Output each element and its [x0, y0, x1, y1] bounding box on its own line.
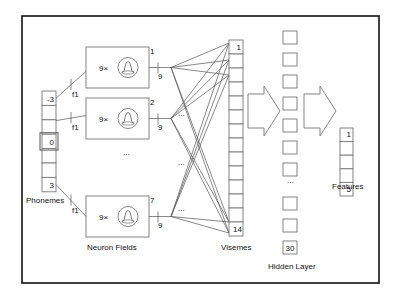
viseme-first-label: 1: [237, 43, 242, 52]
viseme-last-label: 14: [233, 225, 242, 234]
hidden-unit-last-label: 30: [286, 244, 295, 253]
hidden-layer-column: 30: [283, 31, 297, 254]
neuron-field-output-width: 9: [158, 221, 163, 230]
hidden-unit: [283, 119, 297, 132]
hidden-unit: [283, 75, 297, 88]
phoneme-cell-label: 0: [50, 138, 55, 147]
phoneme-cell: [42, 120, 56, 134]
neuron-field-multiplier: 9×: [99, 115, 108, 124]
connection-ellipsis-2: ...: [178, 158, 185, 167]
viseme-cell: [229, 68, 243, 82]
phoneme-cell-label: 3: [50, 181, 55, 190]
feature-cell: [340, 169, 353, 183]
hidden-unit: [283, 141, 297, 154]
viseme-cell: [229, 110, 243, 124]
viseme-cell: [229, 96, 243, 110]
neuron-field-output-width: 9: [158, 72, 163, 81]
neuron-field-index: 1: [150, 47, 155, 56]
viseme-cell: [229, 208, 243, 222]
viseme-cell: [229, 194, 243, 208]
hidden-unit: [283, 197, 297, 210]
neuron-field-index: 7: [150, 196, 155, 205]
hidden-layer-label: Hidden Layer: [268, 262, 316, 271]
feature-first-label: 1: [347, 130, 352, 139]
neuron-field-box: [86, 47, 149, 88]
neuron-field-box: [86, 98, 149, 139]
features-label: Features: [332, 182, 364, 191]
neuron-field-multiplier: 9×: [99, 213, 108, 222]
visemes-label: Visemes: [221, 243, 252, 252]
viseme-cell: [229, 180, 243, 194]
viseme-cell: [229, 82, 243, 96]
hidden-unit: [283, 219, 297, 232]
connection-ellipsis-3: ...: [178, 204, 185, 213]
network-diagram: -303 Phonemes 19×f1929×f1979×f19 ... Neu…: [0, 0, 396, 296]
hidden-unit: [283, 31, 297, 44]
viseme-cell: [229, 124, 243, 138]
viseme-cell: [229, 138, 243, 152]
hidden-unit: [283, 97, 297, 110]
phoneme-cell-label: -3: [47, 95, 55, 104]
neuron-field-index: 2: [150, 98, 155, 107]
viseme-cell: [229, 166, 243, 180]
phonemes-label: Phonemes: [26, 196, 64, 205]
neuron-field-input-width: f1: [72, 90, 79, 99]
neuron-field-multiplier: 9×: [99, 64, 108, 73]
neuron-fields-ellipsis: ...: [123, 148, 130, 157]
viseme-cell: [229, 54, 243, 68]
neuron-field-box: [86, 196, 149, 237]
hidden-unit: [283, 53, 297, 66]
neuron-fields-label: Neuron Fields: [87, 243, 137, 252]
neuron-field-output-width: 9: [158, 123, 163, 132]
feature-cell: [340, 142, 353, 156]
hidden-unit: [283, 163, 297, 176]
viseme-cell: [229, 152, 243, 166]
visemes-column: 114: [229, 40, 243, 236]
hidden-layer-ellipsis: ...: [287, 176, 294, 185]
diagram-frame: [22, 16, 379, 283]
feature-cell: [340, 155, 353, 169]
phoneme-cell: [42, 105, 56, 119]
phoneme-cell: [42, 149, 56, 163]
phoneme-cell: [42, 163, 56, 177]
phonemes-column: -303: [40, 91, 58, 192]
neuron-field-input-width: f1: [72, 206, 79, 215]
neuron-field-input-width: f1: [72, 123, 79, 132]
